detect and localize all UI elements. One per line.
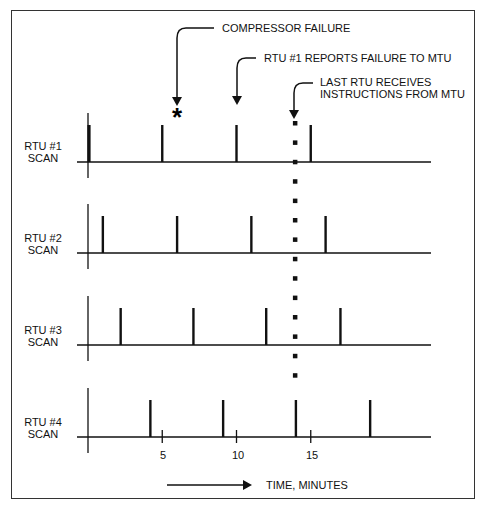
dot xyxy=(293,315,298,320)
row-label-rtu3-scan: SCAN xyxy=(28,336,59,348)
dot xyxy=(293,199,298,204)
row-label-rtu2: RTU #2 xyxy=(24,232,62,244)
dot xyxy=(293,257,298,262)
arrow-right-icon xyxy=(243,480,252,490)
dot xyxy=(293,334,298,339)
tick-label-5: 5 xyxy=(160,449,166,461)
tick-label-10: 10 xyxy=(232,449,244,461)
scan-row xyxy=(77,113,431,178)
arrowhead-icon xyxy=(289,110,299,119)
dot xyxy=(293,373,298,378)
callout-arrow xyxy=(294,83,313,110)
callout-arrow xyxy=(177,28,214,97)
event-label-last-rtu-line2: INSTRUCTIONS FROM MTU xyxy=(320,88,465,100)
dot xyxy=(293,121,298,126)
arrowhead-icon xyxy=(232,96,242,105)
dotted-event-line xyxy=(293,121,298,378)
dot xyxy=(293,179,298,184)
time-direction: TIME, MINUTES xyxy=(167,479,348,491)
scada-timing-diagram: COMPRESSOR FAILURE * RTU #1 REPORTS FAIL… xyxy=(0,0,484,515)
dot xyxy=(293,237,298,242)
row-label-rtu3: RTU #3 xyxy=(24,324,62,336)
tick-label-15: 15 xyxy=(306,449,318,461)
dot xyxy=(293,218,298,223)
dot xyxy=(293,140,298,145)
callout-last-rtu-receives: LAST RTU RECEIVES INSTRUCTIONS FROM MTU xyxy=(289,76,465,119)
callout-arrow xyxy=(237,58,256,96)
scan-rows xyxy=(77,113,431,453)
dot xyxy=(293,160,298,165)
dot xyxy=(293,296,298,301)
dot xyxy=(293,354,298,359)
event-label-rtu1-reports: RTU #1 REPORTS FAILURE TO MTU xyxy=(264,52,452,64)
scan-row xyxy=(77,296,431,361)
event-label-compressor-failure: COMPRESSOR FAILURE xyxy=(222,22,350,34)
scan-row xyxy=(77,204,431,269)
row-label-rtu4-scan: SCAN xyxy=(28,428,59,440)
event-label-last-rtu-line1: LAST RTU RECEIVES xyxy=(320,76,431,88)
row-label-rtu1: RTU #1 xyxy=(24,140,62,152)
asterisk-marker: * xyxy=(172,102,183,132)
dot xyxy=(293,276,298,281)
row-label-rtu1-scan: SCAN xyxy=(28,152,59,164)
time-axis-label: TIME, MINUTES xyxy=(266,479,348,491)
scan-row xyxy=(77,388,431,453)
row-label-rtu4: RTU #4 xyxy=(24,416,62,428)
row-label-rtu2-scan: SCAN xyxy=(28,244,59,256)
